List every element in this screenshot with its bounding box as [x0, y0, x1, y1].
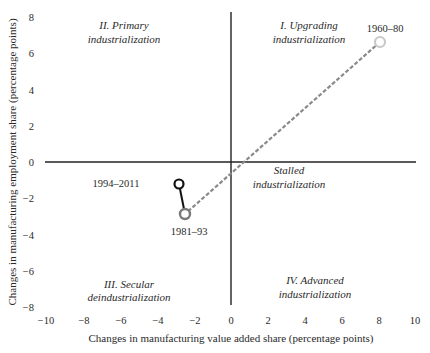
y-tick-labels: 8 6 4 2 0 −2 −4 −6 −8	[23, 12, 35, 313]
svg-text:II. Primary: II. Primary	[98, 19, 149, 31]
quadrant-label-ii: II. Primary industrialization	[88, 19, 161, 45]
svg-text:6: 6	[339, 315, 344, 326]
svg-text:10: 10	[410, 315, 421, 326]
svg-text:I. Upgrading: I. Upgrading	[279, 19, 338, 31]
label-1994-2011: 1994–2011	[93, 178, 140, 189]
svg-text:8: 8	[29, 12, 34, 23]
svg-text:−6: −6	[115, 315, 126, 326]
svg-text:industrialization: industrialization	[88, 33, 161, 45]
x-axis-title: Changes in manufacturing value added sha…	[89, 332, 374, 345]
svg-text:−8: −8	[23, 302, 34, 313]
svg-text:industrialization: industrialization	[273, 33, 346, 45]
x-tick-labels: −10 −8 −6 −4 −2 0 2 4 6 8 10	[38, 315, 420, 326]
svg-text:−2: −2	[189, 315, 200, 326]
svg-text:−2: −2	[23, 193, 34, 204]
quadrant-label-iii: III. Secular deindustrialization	[87, 278, 171, 303]
label-1981-93: 1981–93	[171, 226, 208, 237]
svg-text:−8: −8	[78, 315, 89, 326]
quadrant-scatter-chart: 8 6 4 2 0 −2 −4 −6 −8 −10 −8 −6 −4 −2 0 …	[0, 0, 430, 353]
svg-text:2: 2	[265, 315, 270, 326]
quadrant-label-stalled: Stalled industrialization	[253, 164, 326, 190]
point-1981-93	[180, 209, 190, 219]
svg-text:−4: −4	[23, 230, 35, 241]
svg-text:0: 0	[29, 157, 34, 168]
svg-text:−10: −10	[38, 315, 54, 326]
point-1960-80	[375, 37, 385, 47]
svg-text:6: 6	[29, 48, 34, 59]
svg-text:4: 4	[302, 315, 308, 326]
svg-text:−4: −4	[152, 315, 164, 326]
svg-text:8: 8	[376, 315, 381, 326]
label-1960-80: 1960–80	[367, 23, 404, 34]
svg-text:industrialization: industrialization	[253, 178, 326, 190]
svg-text:deindustrialization: deindustrialization	[87, 291, 171, 303]
quadrant-label-iv: IV. Advanced industrialization	[279, 274, 352, 300]
point-1994-2011	[175, 180, 184, 189]
svg-text:2: 2	[29, 121, 34, 132]
quadrant-label-i: I. Upgrading industrialization	[273, 19, 346, 45]
svg-text:Stalled: Stalled	[274, 164, 305, 176]
y-axis-title: Changes in manufacturing employment shar…	[6, 18, 19, 305]
svg-text:IV. Advanced: IV. Advanced	[285, 274, 344, 286]
svg-text:−6: −6	[23, 266, 34, 277]
svg-text:0: 0	[228, 315, 233, 326]
svg-text:III. Secular: III. Secular	[103, 278, 155, 290]
svg-text:industrialization: industrialization	[279, 288, 352, 300]
svg-text:4: 4	[29, 85, 35, 96]
